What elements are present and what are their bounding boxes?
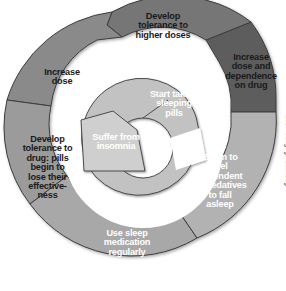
copyright-credit: © 2017 Cengage Learning	[285, 109, 286, 186]
spiral-diagram-graphic	[0, 0, 286, 291]
spiral-cycle-figure: Develop tolerance to higher doses Increa…	[0, 0, 286, 291]
